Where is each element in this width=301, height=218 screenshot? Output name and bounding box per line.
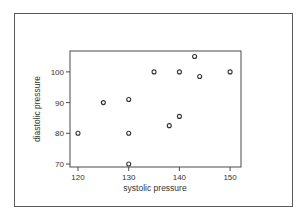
data-point xyxy=(198,75,202,79)
x-tick-label: 150 xyxy=(223,173,237,182)
y-axis-label: diastolic pressure xyxy=(32,76,42,142)
data-point xyxy=(228,70,232,74)
data-point xyxy=(127,98,131,102)
data-point xyxy=(152,70,156,74)
data-point xyxy=(177,114,181,118)
data-point xyxy=(101,101,105,105)
y-tick-label: 70 xyxy=(55,160,64,169)
data-points xyxy=(76,55,232,166)
x-axis-ticks: 120130140150 xyxy=(71,167,237,182)
data-point xyxy=(127,131,131,135)
data-point xyxy=(177,70,181,74)
scatter-chart: 120130140150 708090100 systolic pressure… xyxy=(0,0,301,218)
data-point xyxy=(127,162,131,166)
y-tick-label: 100 xyxy=(51,68,65,77)
y-tick-label: 80 xyxy=(55,129,64,138)
data-point xyxy=(76,131,80,135)
y-axis-ticks: 708090100 xyxy=(51,68,70,169)
x-tick-label: 140 xyxy=(173,173,187,182)
data-point xyxy=(193,55,197,59)
plot-area xyxy=(70,51,241,167)
y-tick-label: 90 xyxy=(55,99,64,108)
x-tick-label: 130 xyxy=(122,173,136,182)
x-axis-label: systolic pressure xyxy=(123,183,187,193)
x-tick-label: 120 xyxy=(71,173,85,182)
data-point xyxy=(167,124,171,128)
